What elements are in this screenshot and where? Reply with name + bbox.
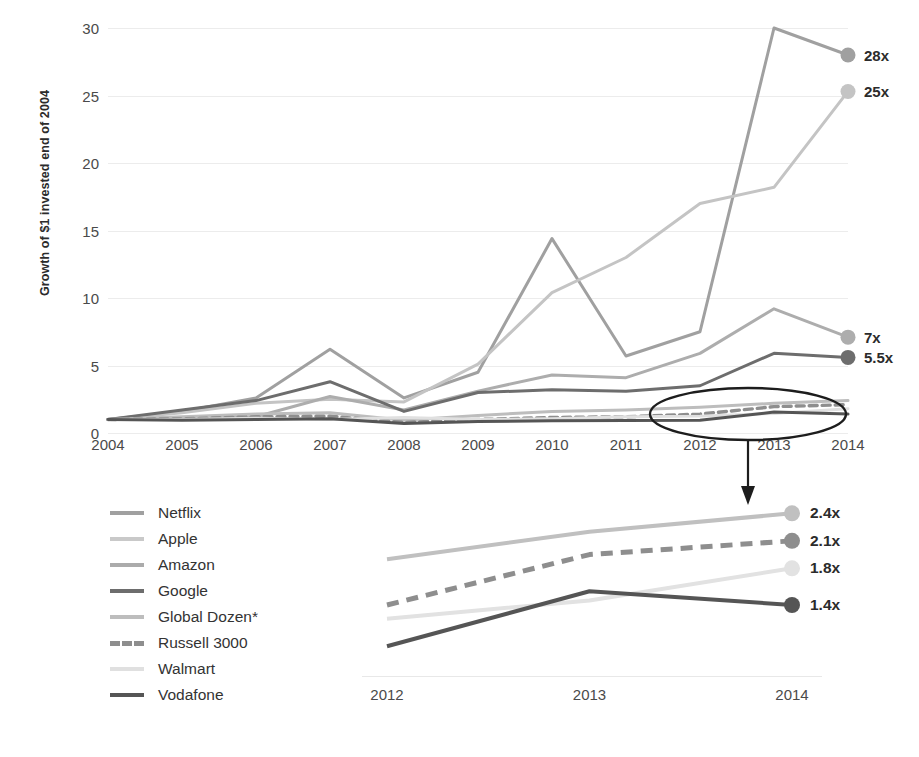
y-axis-title: Growth of $1 invested end of 2004 — [38, 63, 52, 323]
callout-ellipse — [650, 388, 846, 440]
end-label-amazon: 7x — [864, 329, 881, 346]
y-tick-label: 10 — [82, 290, 99, 307]
inset-end-marker — [784, 597, 800, 613]
legend-label: Global Dozen* — [158, 608, 258, 626]
end-label-google: 5.5x — [864, 349, 893, 366]
x-tick-label: 2007 — [313, 436, 346, 453]
x-tick-label: 2008 — [387, 436, 420, 453]
x-tick-label: 2009 — [461, 436, 494, 453]
legend-item-global-dozen[interactable]: Global Dozen* — [110, 604, 258, 630]
legend-item-apple[interactable]: Apple — [110, 526, 258, 552]
end-marker — [841, 84, 856, 99]
legend-label: Walmart — [158, 660, 215, 678]
legend-item-netflix[interactable]: Netflix — [110, 500, 258, 526]
legend-item-russell-3000[interactable]: Russell 3000 — [110, 630, 258, 656]
end-marker — [841, 48, 856, 63]
inset-series-lines — [362, 488, 822, 678]
inset-end-label-global-dozen: 2.4x — [810, 504, 840, 522]
legend-label: Google — [158, 582, 208, 600]
end-label-apple: 25x — [864, 83, 889, 100]
legend-swatch — [110, 589, 144, 593]
inset-end-marker — [784, 505, 800, 521]
x-tick-label: 2006 — [239, 436, 272, 453]
legend-swatch — [110, 693, 144, 697]
x-tick-label: 2004 — [91, 436, 124, 453]
inset-series-line-walmart — [387, 568, 792, 618]
legend-item-google[interactable]: Google — [110, 578, 258, 604]
end-marker — [841, 350, 856, 365]
inset-end-marker — [784, 533, 800, 549]
legend-label: Netflix — [158, 504, 201, 522]
legend-swatch — [110, 537, 144, 541]
x-tick-label: 2011 — [610, 436, 642, 453]
legend-label: Russell 3000 — [158, 634, 248, 652]
y-tick-label: 30 — [82, 20, 99, 37]
inset-end-marker — [784, 560, 800, 576]
y-tick-label: 5 — [91, 357, 99, 374]
y-tick-label: 20 — [82, 155, 99, 172]
inset-x-tick-label: 2012 — [370, 686, 403, 703]
legend-item-walmart[interactable]: Walmart — [110, 656, 258, 682]
inset-end-label-vodafone: 1.4x — [810, 596, 840, 614]
legend: NetflixAppleAmazonGoogleGlobal Dozen*Rus… — [110, 500, 258, 708]
inset-x-tick-label: 2014 — [775, 686, 808, 703]
y-tick-label: 25 — [82, 87, 99, 104]
legend-item-amazon[interactable]: Amazon — [110, 552, 258, 578]
end-label-netflix: 28x — [864, 47, 889, 64]
inset-end-label-walmart: 1.8x — [810, 559, 840, 577]
legend-label: Amazon — [158, 556, 215, 574]
legend-label: Vodafone — [158, 686, 224, 704]
legend-swatch — [110, 511, 144, 515]
main-series-lines — [108, 28, 848, 433]
main-line-chart: 051015202530 200420052006200720082009201… — [108, 28, 848, 433]
y-tick-label: 15 — [82, 222, 99, 239]
series-line-netflix — [108, 28, 848, 420]
legend-item-vodafone[interactable]: Vodafone — [110, 682, 258, 708]
inset-line-chart: 201220132014 — [362, 488, 822, 703]
legend-swatch — [110, 667, 144, 671]
chart-canvas: Growth of $1 invested end of 2004 051015… — [0, 0, 919, 757]
inset-x-tick-label: 2013 — [573, 686, 606, 703]
x-tick-label: 2005 — [165, 436, 198, 453]
legend-swatch — [110, 563, 144, 567]
x-tick-label: 2010 — [535, 436, 568, 453]
legend-swatch — [110, 615, 144, 619]
legend-label: Apple — [158, 530, 198, 548]
end-marker — [841, 330, 856, 345]
inset-end-label-russell-3000: 2.1x — [810, 532, 840, 550]
legend-swatch — [110, 641, 144, 646]
